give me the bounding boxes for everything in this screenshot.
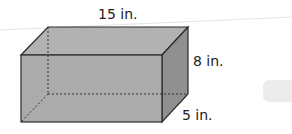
- height-label: 8 in.: [193, 53, 224, 69]
- top-face: [21, 27, 188, 55]
- rectangular-prism-diagram: [0, 0, 292, 134]
- front-face: [21, 55, 162, 122]
- length-label: 15 in.: [98, 6, 137, 22]
- answer-box: [263, 80, 292, 102]
- width-label: 5 in.: [182, 107, 213, 123]
